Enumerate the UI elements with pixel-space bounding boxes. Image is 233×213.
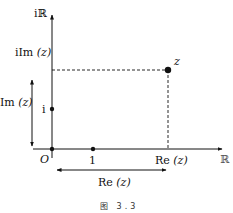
re-z-width-arg: (z) — [116, 176, 130, 189]
point-i-label: i — [42, 104, 46, 115]
real-axis-label: ℝ — [220, 154, 229, 165]
im-z-prefix: Im — [0, 96, 15, 109]
re-z-width-prefix: Re — [98, 176, 113, 189]
im-z-arg: (z) — [18, 96, 32, 109]
point-z — [165, 67, 171, 73]
i-im-z-label: iIm (z) — [15, 47, 51, 58]
point-one — [91, 147, 95, 151]
re-z-tick-label: Re (z) — [155, 155, 188, 166]
i-im-z-prefix: iIm — [15, 46, 33, 59]
re-z-tick-prefix: Re — [155, 154, 170, 167]
point-z-label: z — [174, 56, 180, 67]
point-i — [50, 107, 54, 111]
i-im-z-arg: (z) — [37, 46, 51, 59]
im-z-label: Im (z) — [0, 97, 33, 108]
origin-label: O — [40, 154, 49, 165]
figure-caption: 图 3.3 — [100, 200, 138, 211]
origin-point — [50, 147, 54, 151]
point-one-label: 1 — [89, 155, 96, 166]
re-z-tick-arg: (z) — [173, 154, 187, 167]
re-z-width-label: Re (z) — [98, 177, 131, 188]
imaginary-axis-label: iℝ — [34, 8, 47, 19]
